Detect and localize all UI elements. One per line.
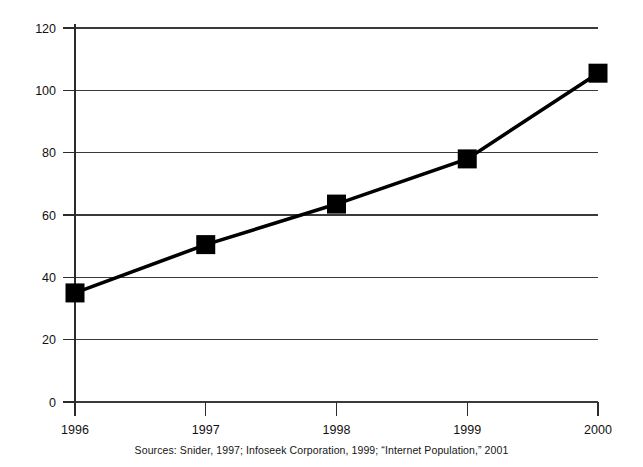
y-tick-label: 120 [35,22,56,36]
y-tick-label: 100 [35,84,56,98]
y-tick-label: 20 [42,333,56,347]
x-tick-label: 1996 [61,423,89,437]
y-tick-label: 0 [49,396,56,410]
chart-plot-area: 020406080100120 19961997199819992000 [0,0,643,440]
y-tick-label: 80 [42,146,56,160]
chart-canvas: 020406080100120 19961997199819992000 [0,0,643,440]
x-tick-label: 1999 [453,423,481,437]
y-tick-label: 60 [42,209,56,223]
y-axis-tick-labels: 020406080100120 [35,22,56,410]
data-series-line [75,73,598,293]
data-point-marker [327,195,346,214]
x-axis-tick-labels: 19961997199819992000 [61,423,612,437]
x-tick-label: 1998 [323,423,351,437]
y-tick-label: 40 [42,271,56,285]
tick-marks [63,28,598,416]
source-caption: Sources: Snider, 1997; Infoseek Corporat… [0,444,643,456]
data-point-marker [196,235,215,254]
data-point-marker [589,64,608,83]
x-tick-label: 2000 [584,423,612,437]
x-tick-label: 1997 [192,423,220,437]
data-point-marker [458,149,477,168]
line-chart-figure: 020406080100120 19961997199819992000 Sou… [0,0,643,467]
gridlines [75,28,598,402]
series-line [75,73,598,293]
data-point-marker [66,283,85,302]
